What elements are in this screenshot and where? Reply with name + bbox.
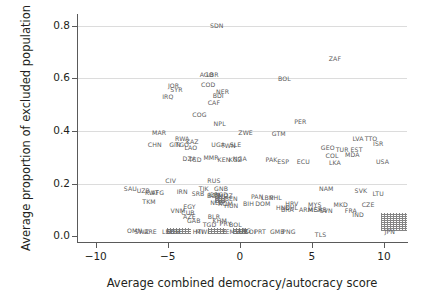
data-point-label: PNG <box>282 228 295 235</box>
y-tick-label: 0.6 <box>0 71 81 83</box>
data-point-label: GAB <box>187 217 201 224</box>
data-point-label: ARE <box>144 228 157 235</box>
data-point-label: CHN <box>148 140 162 147</box>
data-point-label: PRT <box>254 228 266 235</box>
data-point-label: ZWE <box>238 128 253 135</box>
x-tick-label: 10 <box>364 250 404 262</box>
x-tick-mark <box>240 243 241 248</box>
data-point-label: LKA <box>329 158 341 165</box>
data-point-label: BRA <box>281 205 294 212</box>
data-point-label: ESP <box>277 158 289 165</box>
data-point-label: SLE <box>230 140 242 147</box>
x-tick-label: 0 <box>220 250 260 262</box>
overplotted-label-cluster <box>208 228 226 234</box>
plot-area: SDNAGOLBRCODJORSYRNERBDIIRQCAFCOGNPLZAFB… <box>77 14 407 242</box>
data-point-label: BIH <box>243 199 254 206</box>
data-point-label: COL <box>326 151 339 158</box>
data-point-label: GEO <box>321 143 335 150</box>
x-tick-mark <box>312 243 313 248</box>
data-point-label: USA <box>376 158 389 165</box>
data-point-label: PAK <box>266 156 278 163</box>
x-tick-label: −5 <box>148 250 188 262</box>
overplotted-label-cluster <box>167 228 191 234</box>
data-point-label: COG <box>192 110 206 117</box>
y-tick-label: 0.2 <box>0 177 81 189</box>
data-point-label: MMR <box>203 154 218 161</box>
data-point-label: LVA <box>352 135 363 142</box>
scatter-plot-figure: Average proportion of excluded populatio… <box>0 0 427 300</box>
data-point-label: PHL <box>270 194 282 201</box>
x-tick-mark <box>96 243 97 248</box>
data-point-label: NGA <box>233 155 247 162</box>
data-point-label: SAU <box>124 184 137 191</box>
data-point-label: LAO <box>184 143 197 150</box>
data-point-label: HTI <box>193 228 204 235</box>
data-point-label: LBR <box>206 70 218 77</box>
data-point-label: ISR <box>373 139 383 146</box>
data-point-label: LTU <box>373 189 384 196</box>
x-tick-label: −10 <box>76 250 116 262</box>
x-axis-label: Average combined democracy/autocracy sco… <box>77 276 407 290</box>
data-point-label: SVN <box>320 207 333 214</box>
data-point-label: HUN <box>224 202 238 209</box>
data-point-label: BOL <box>278 74 291 81</box>
overplotted-label-cluster <box>215 197 225 203</box>
data-point-label: TKM <box>142 197 155 204</box>
data-point-label: IRN <box>177 187 188 194</box>
data-point-label: RUS <box>207 176 220 183</box>
data-point-label: PER <box>294 118 306 125</box>
x-tick-label: 5 <box>292 250 332 262</box>
data-point-label: CZE <box>362 201 375 208</box>
data-point-label: GTM <box>272 130 286 137</box>
data-point-label: MAR <box>152 128 166 135</box>
overplotted-label-cluster <box>381 213 407 231</box>
y-tick-label: 0.8 <box>0 19 81 31</box>
data-point-label: NAM <box>319 185 334 192</box>
data-point-label: TLS <box>315 230 326 237</box>
data-point-label: IRQ <box>162 92 173 99</box>
data-point-label: IND <box>352 210 364 217</box>
data-point-label: NPL <box>214 119 226 126</box>
overplotted-label-cluster <box>233 228 247 234</box>
y-tick-label: 0.4 <box>0 124 81 136</box>
y-tick-label: 0.0 <box>0 229 81 241</box>
data-point-label: TCD <box>189 155 202 162</box>
data-point-label: COD <box>201 81 215 88</box>
data-point-label: CIV <box>165 176 176 183</box>
data-point-label: AFG <box>151 188 164 195</box>
data-point-label: CAF <box>208 98 220 105</box>
x-tick-mark <box>168 243 169 248</box>
data-point-label: SRB <box>192 189 205 196</box>
data-point-label: SDN <box>210 21 224 28</box>
x-tick-mark <box>384 243 385 248</box>
data-point-label: SVK <box>355 187 368 194</box>
data-point-label: ECU <box>297 157 310 164</box>
data-point-label: TGD <box>203 220 217 227</box>
data-point-label: MDA <box>345 151 360 158</box>
x-axis-line <box>77 242 408 243</box>
data-point-label: ZAF <box>329 54 341 61</box>
